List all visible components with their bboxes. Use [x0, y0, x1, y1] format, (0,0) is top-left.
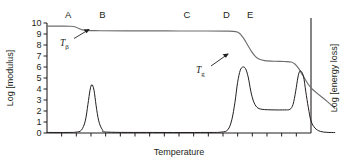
- region-labels: ABCDE: [65, 9, 254, 20]
- y-axis-right-title: Log [energy loss]: [329, 44, 339, 113]
- y-axis-tick-label: 9: [36, 29, 41, 39]
- y-axis-tick-label: 3: [36, 95, 41, 105]
- region-label-c: C: [183, 9, 190, 20]
- t-g-annotation: Tg: [196, 53, 229, 77]
- y-axis-tick-label: 7: [36, 51, 41, 61]
- y-axis-tick-label: 4: [36, 84, 41, 94]
- region-label-e: E: [247, 9, 253, 20]
- t-beta-label: Tβ: [60, 38, 69, 51]
- region-label-b: B: [99, 9, 105, 20]
- y-axis-tick-label: 0: [36, 128, 41, 138]
- region-label-d: D: [223, 9, 230, 20]
- dma-thermogram-figure: 012345678910 ABCDE Tβ Tg Temperature Log…: [0, 0, 348, 160]
- t-beta-annotation: Tβ: [60, 29, 90, 51]
- energy-loss-curve: [47, 67, 335, 133]
- chart-svg: 012345678910 ABCDE Tβ Tg Temperature Log…: [0, 0, 348, 160]
- t-g-subscript: g: [201, 70, 205, 78]
- t-g-label: Tg: [196, 65, 205, 78]
- y-axis-left-title: Log [modulus]: [5, 50, 15, 107]
- y-axis-tick-label: 6: [36, 62, 41, 72]
- data-curves: [47, 26, 335, 132]
- y-axis-tick-labels: 012345678910: [31, 18, 41, 138]
- y-axis-tick-label: 2: [36, 106, 41, 116]
- region-label-a: A: [65, 9, 72, 20]
- y-axis-tick-label: 1: [36, 117, 41, 127]
- x-axis-title: Temperature: [154, 147, 205, 157]
- modulus-curve: [47, 26, 335, 108]
- y-axis-tick-label: 8: [36, 40, 41, 50]
- y-axis-tick-label: 5: [36, 73, 41, 83]
- t-beta-subscript: β: [65, 43, 69, 51]
- y-axis-tick-label: 10: [31, 18, 41, 28]
